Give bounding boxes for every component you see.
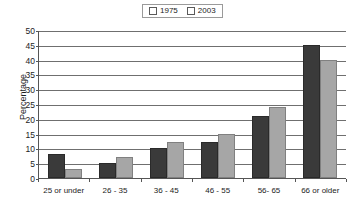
x-tick-mark [192,179,193,182]
bar-group [193,31,244,178]
bar-1975-25-or-under [48,154,65,178]
y-tick-label: 5 [30,159,35,169]
x-tick-mark [346,179,347,182]
legend-entry-2003: 2003 [187,7,216,15]
x-tick-mark [295,179,296,182]
x-tick-label: 56- 65 [243,186,294,195]
bar-group [295,31,346,178]
y-tick-label: 35 [26,70,35,80]
legend-label-1975: 1975 [160,7,178,15]
x-tick-mark [38,179,39,182]
bar-group [244,31,295,178]
x-tick-label: 36 - 45 [141,186,192,195]
legend-swatch-2003 [187,7,195,15]
y-tick-label: 15 [26,130,35,140]
y-tick-label: 10 [26,144,35,154]
y-tick-label: 30 [26,85,35,95]
x-tick-mark [243,179,244,182]
x-tick-label: 25 or under [38,186,89,195]
y-tick-label: 50 [26,26,35,36]
plot-area: 50454035302520151050 [38,31,346,179]
bar-2003-56--65 [269,107,286,178]
x-axis-ticks [38,179,346,182]
bar-2003-25-or-under [65,169,82,178]
bar-1975-26---35 [99,163,116,178]
y-tick-label: 40 [26,56,35,66]
x-tick-label: 66 or older [295,186,346,195]
legend-swatch-1975 [149,7,157,15]
bar-2003-36---45 [167,142,184,178]
x-tick-mark [141,179,142,182]
bar-1975-36---45 [150,148,167,178]
y-tick-label: 25 [26,100,35,110]
x-tick-label: 26 - 35 [89,186,140,195]
bars-layer [39,31,346,178]
bar-group [141,31,192,178]
x-tick-mark [89,179,90,182]
x-axis-labels: 25 or under26 - 3536 - 4546 - 5556- 6566… [38,186,346,195]
bar-chart: 1975 2003 Percentage 5045403530252015105… [0,0,355,211]
y-tick-label: 0 [30,174,35,184]
bar-2003-26---35 [116,157,133,178]
legend-label-2003: 2003 [198,7,216,15]
chart-legend: 1975 2003 [142,4,223,18]
bar-1975-56--65 [252,116,269,178]
bar-1975-66-or-older [303,45,320,178]
x-tick-label: 46 - 55 [192,186,243,195]
legend-entry-1975: 1975 [149,7,178,15]
bar-2003-66-or-older [320,60,337,178]
y-tick-label: 45 [26,41,35,51]
bar-group [39,31,90,178]
y-tick-label: 20 [26,115,35,125]
bar-1975-46---55 [201,142,218,178]
bar-2003-46---55 [218,134,235,178]
bar-group [90,31,141,178]
